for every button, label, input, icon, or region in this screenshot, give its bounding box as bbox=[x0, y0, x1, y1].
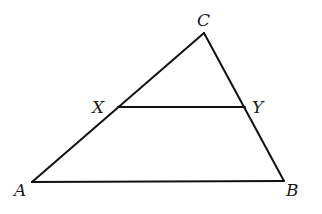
label-a: A bbox=[12, 180, 26, 200]
label-c: C bbox=[197, 10, 210, 30]
triangle-diagram: C X Y A B bbox=[0, 0, 322, 214]
label-y: Y bbox=[252, 97, 265, 117]
label-b: B bbox=[285, 180, 299, 200]
label-x: X bbox=[90, 97, 105, 117]
segment-ab bbox=[32, 181, 284, 182]
